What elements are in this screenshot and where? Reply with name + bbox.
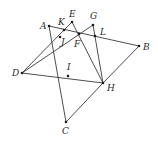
point-B xyxy=(138,45,141,48)
label-B: B xyxy=(142,42,150,52)
label-J: J xyxy=(59,37,66,47)
point-D xyxy=(21,72,24,75)
label-C: C xyxy=(62,126,69,136)
point-L xyxy=(94,35,97,38)
point-labels: AKEGLBJFDIHC xyxy=(11,9,150,136)
label-F: F xyxy=(73,39,81,49)
segment-DG xyxy=(22,25,93,73)
segment-KE xyxy=(64,22,72,30)
label-L: L xyxy=(99,27,106,37)
point-I xyxy=(67,75,70,78)
label-D: D xyxy=(11,68,19,78)
segment-DK xyxy=(22,30,64,73)
point-H xyxy=(102,82,105,85)
label-K: K xyxy=(57,17,66,27)
label-A: A xyxy=(39,21,47,31)
label-H: H xyxy=(106,83,115,93)
point-G xyxy=(92,24,95,27)
point-E xyxy=(71,21,74,24)
geometry-diagram: AKEGLBJFDIHC xyxy=(0,0,158,141)
segments xyxy=(22,22,139,122)
points xyxy=(21,21,141,124)
label-I: I xyxy=(66,62,71,72)
segment-DH xyxy=(22,73,103,83)
segment-HB xyxy=(103,46,139,83)
label-E: E xyxy=(68,9,76,19)
label-G: G xyxy=(90,11,97,21)
point-K xyxy=(63,29,66,32)
point-A xyxy=(48,25,51,28)
segment-CH xyxy=(66,83,103,122)
segment-EH xyxy=(72,22,103,83)
point-C xyxy=(65,121,68,124)
point-F xyxy=(78,33,81,36)
